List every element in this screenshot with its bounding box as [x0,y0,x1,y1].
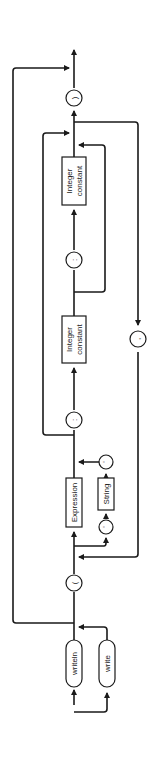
expression-box: Expression [66,478,82,527]
svg-text:constant: constant [75,165,84,196]
svg-text:): ) [70,96,79,99]
integer-constant-box-2: Integer constant [62,157,86,205]
svg-text:Integer: Integer [65,327,74,352]
svg-text:(: ( [70,581,79,584]
comma-symbol: , [130,331,146,347]
svg-text:write: write [103,655,112,673]
colon-symbol-2: : [66,252,82,268]
colon-symbol-1: : [66,412,82,428]
quote-close-symbol: ' [99,455,113,469]
svg-text:String: String [102,484,111,505]
svg-text::: : [70,259,79,261]
integer-constant-box-1: Integer constant [62,316,86,363]
svg-text:constant: constant [75,324,84,355]
svg-text:Integer: Integer [65,168,74,193]
open-paren-symbol: ( [66,575,82,591]
string-box: String [98,478,114,510]
syntax-diagram: writeln write ( Expression ' String ' : … [0,0,156,771]
writeln-keyword: writeln [66,640,82,687]
close-paren-symbol: ) [66,90,82,106]
svg-text:writeln: writeln [70,652,79,676]
write-keyword: write [99,640,115,687]
quote-open-symbol: ' [99,520,113,534]
svg-text:,: , [133,338,142,340]
svg-text:Expression: Expression [70,483,79,523]
svg-text::: : [70,419,79,421]
